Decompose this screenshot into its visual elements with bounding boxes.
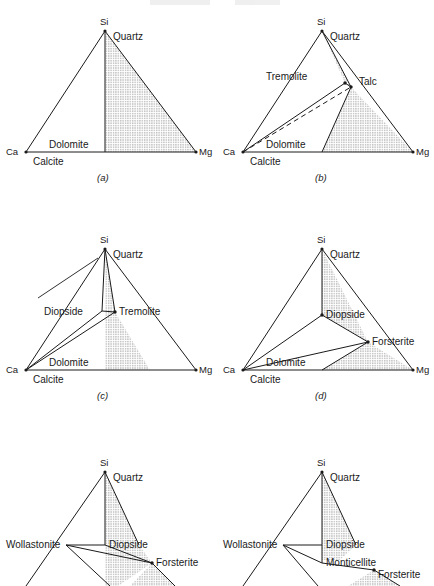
panel-d-phase-quartz: Quartz [330, 249, 360, 260]
panel-a-node-mg [194, 150, 197, 153]
panel-a-phase-calcite: Calcite [33, 156, 64, 167]
panel-f-phase-wollastonite: Wollastonite [223, 539, 278, 550]
panel-a-vertex-mg: Mg [199, 146, 212, 157]
panel-d-node-mg [411, 368, 414, 371]
panel-d-vertex-si: Si [317, 234, 325, 245]
panel-f-node-forsterite [372, 568, 375, 571]
panel-a-caption: (a) [97, 172, 109, 183]
panel-e-node-forsterite [150, 561, 153, 564]
panel-d-vertex-ca: Ca [223, 364, 236, 375]
panel-f-vertex-si: Si [317, 457, 325, 468]
panel-c-vertex-si: Si [100, 234, 108, 245]
panel-d-phase-dolomite: Dolomite [266, 357, 306, 368]
panel-b-phase-talc: Talc [359, 76, 377, 87]
phase-diagram-figure: Si Ca Mg Quartz Dolomite Calcite (a) Si … [0, 0, 434, 586]
panel-a-node-ca [24, 150, 27, 153]
panel-b-node-si [320, 29, 323, 32]
panel-c-caption: (c) [97, 390, 108, 401]
panel-b-vertex-si: Si [317, 16, 325, 27]
panel-d-node-forsterite [366, 340, 369, 343]
panel-b-caption: (b) [315, 172, 327, 183]
panel-c-node-si [103, 247, 106, 250]
panel-b-node-mg [411, 150, 414, 153]
panel-c-phase-tremolite: Tremolite [119, 306, 161, 317]
panel-a-vertex-si: Si [100, 16, 108, 27]
panel-d-caption: (d) [315, 390, 327, 401]
panel-a-phase-quartz: Quartz [113, 31, 143, 42]
panel-d-node-si [320, 247, 323, 250]
panel-f-phase-quartz: Quartz [330, 472, 360, 483]
panel-d-node-diopside [320, 313, 323, 316]
panel-f-node-si [320, 470, 323, 473]
panel-c-vertex-mg: Mg [199, 364, 212, 375]
panel-c-phase-diopside: Diopside [44, 306, 83, 317]
panel-b-node-ca [241, 150, 244, 153]
panel-b-node-talc [349, 85, 352, 88]
panel-a-phase-dolomite: Dolomite [49, 139, 89, 150]
panel-a-node-si [103, 29, 106, 32]
panel-d-node-ca [241, 368, 244, 371]
panel-f-phase-diopside: Diopside [326, 539, 365, 550]
panel-c-node-mg [194, 368, 197, 371]
panel-e-phase-diopside: Diopside [109, 539, 148, 550]
panel-f-phase-forsterite: Forsterite [378, 569, 421, 580]
panel-b-node-tremolite [343, 81, 346, 84]
panel-a-vertex-ca: Ca [6, 146, 19, 157]
panel-d-vertex-mg: Mg [416, 364, 429, 375]
panel-c-node-tremolite [113, 310, 116, 313]
panel-b-phase-tremolite: Tremolite [266, 71, 308, 82]
panel-e-vertex-si: Si [100, 457, 108, 468]
panel-e-phase-wollastonite: Wollastonite [6, 539, 61, 550]
panel-c-vertex-ca: Ca [6, 364, 19, 375]
panel-b-phase-calcite: Calcite [250, 156, 281, 167]
panel-b-vertex-ca: Ca [223, 146, 236, 157]
panel-c-phase-quartz: Quartz [113, 249, 143, 260]
panel-d-phase-diopside: Diopside [326, 309, 365, 320]
panel-c-node-ca [24, 368, 27, 371]
panel-d-phase-calcite: Calcite [250, 374, 281, 385]
panel-b-phase-quartz: Quartz [330, 31, 360, 42]
page-background [0, 0, 434, 586]
panel-e-phase-quartz: Quartz [113, 472, 143, 483]
panel-c-phase-dolomite: Dolomite [49, 357, 89, 368]
panel-f-phase-monticellite: Monticellite [326, 557, 376, 568]
panel-b-vertex-mg: Mg [416, 146, 429, 157]
panel-d-phase-forsterite: Forsterite [372, 336, 415, 347]
panel-e-phase-forsterite: Forsterite [156, 557, 199, 568]
panel-b-phase-dolomite: Dolomite [266, 139, 306, 150]
panel-e-node-si [103, 470, 106, 473]
panel-c-phase-calcite: Calcite [33, 374, 64, 385]
